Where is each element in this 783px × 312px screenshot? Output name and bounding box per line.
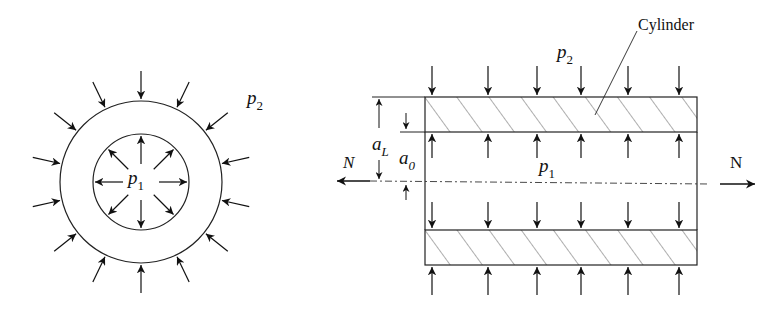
figure: p2 p1 Cylinder p2 p1 aL a0 N N — [0, 0, 783, 312]
outer-pressure-arrow — [93, 82, 105, 107]
label-p2-right: p2 — [555, 41, 573, 67]
outer-pressure-arrow — [206, 234, 228, 251]
outer-pressure-arrow — [222, 157, 249, 163]
label-p1-left: p1 — [126, 167, 144, 193]
inner-pressure-arrow — [108, 195, 128, 215]
outer-pressure-arrow — [33, 200, 60, 206]
label-aL: aL — [372, 133, 389, 159]
outer-pressure-arrow — [54, 113, 76, 130]
label-p2-left: p2 — [245, 87, 263, 113]
inner-pressure-arrow — [154, 195, 174, 215]
inner-pressure-arrow — [154, 149, 174, 169]
label-a0: a0 — [399, 147, 416, 173]
cylinder-label: Cylinder — [638, 16, 695, 34]
label-N-left: N — [342, 153, 356, 172]
outer-pressure-arrow — [54, 234, 76, 251]
inner-pressure-arrow — [108, 149, 128, 169]
lower-wall — [425, 230, 697, 265]
outer-pressure-arrow — [206, 113, 228, 130]
outer-pressure-arrow — [177, 82, 189, 107]
outer-pressure-arrow — [93, 257, 105, 282]
longitudinal-view: Cylinder p2 p1 aL a0 N N — [337, 16, 755, 295]
upper-wall — [425, 97, 697, 132]
cross-section-view: p2 p1 — [33, 71, 263, 293]
outer-pressure-arrow — [33, 157, 60, 163]
label-N-right: N — [730, 153, 742, 172]
diagram-canvas: p2 p1 Cylinder p2 p1 aL a0 N N — [0, 0, 783, 312]
label-p1-right: p1 — [537, 155, 555, 181]
outer-pressure-arrow — [177, 257, 189, 282]
outer-pressure-arrow — [222, 200, 249, 206]
centerline — [370, 181, 710, 184]
